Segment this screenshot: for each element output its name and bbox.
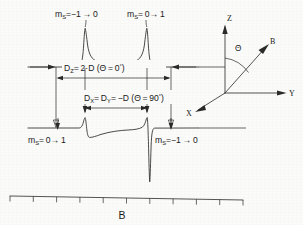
epr-powder-pattern-figure: DZ= 2·D (Θ = 0°) DX= DY= −D (Θ = 90°) mS… (0, 0, 303, 225)
dz-dimension-marker: DZ= 2·D (Θ = 0°) (57, 60, 171, 80)
theta-angle-label: Θ (235, 44, 241, 53)
coordinate-system-inset: Z Y X B Θ (186, 14, 295, 128)
top-right-transition-label: mS= 0→ 1 (127, 9, 165, 20)
dxy-dimension-label: DX= DY= −D (Θ = 90°) (84, 93, 164, 104)
dxy-left-vertical-arrowhead (83, 106, 88, 114)
b-vector-line (225, 47, 266, 93)
y-axis-arrowhead (277, 90, 287, 95)
bottom-left-transition-label: mS= 0→ 1 (28, 135, 66, 146)
top-left-leader-line (85, 20, 86, 27)
bottom-left-transition-annotation: mS= 0→ 1 (28, 118, 66, 146)
top-right-transition-annotation: mS= 0→ 1 (127, 9, 165, 27)
field-axis-label: B (118, 209, 125, 221)
top-right-leader-line (146, 20, 147, 27)
z-axis-arrowhead (222, 25, 227, 35)
dz-dimension-right-arrowhead (164, 76, 171, 80)
top-left-transition-label: mS=−1 → 0 (55, 9, 98, 20)
x-axis-label: X (186, 109, 192, 118)
bottom-right-transition-annotation: mS=−1 → 0 (155, 118, 198, 146)
dz-right-pointer-arrowhead (172, 65, 180, 70)
bottom-right-transition-label: mS=−1 → 0 (155, 135, 198, 146)
figure-container: DZ= 2·D (Θ = 0°) DX= DY= −D (Θ = 90°) mS… (0, 0, 303, 225)
dxy-dimension-marker: DX= DY= −D (Θ = 90°) (82, 90, 192, 110)
dxy-right-vertical-arrowhead (145, 106, 150, 114)
dz-dimension-left-arrowhead (57, 76, 64, 80)
lower-trace-path (28, 118, 198, 182)
y-axis-label: Y (289, 89, 295, 98)
field-axis-ticks (10, 196, 243, 206)
dz-dimension-label: DZ= 2·D (Θ = 0°) (64, 63, 125, 74)
b-vector-arrowhead (259, 44, 270, 54)
x-axis-arrowhead (195, 105, 206, 112)
lower-derivative-trace (28, 118, 198, 182)
bottom-right-leader-arrowhead (169, 123, 174, 130)
b-vector-label: B (270, 37, 275, 46)
field-axis: B (10, 196, 243, 221)
dz-left-pointer-arrowhead (48, 65, 56, 70)
top-left-transition-annotation: mS=−1 → 0 (55, 9, 98, 27)
z-axis-label: Z (227, 14, 232, 23)
